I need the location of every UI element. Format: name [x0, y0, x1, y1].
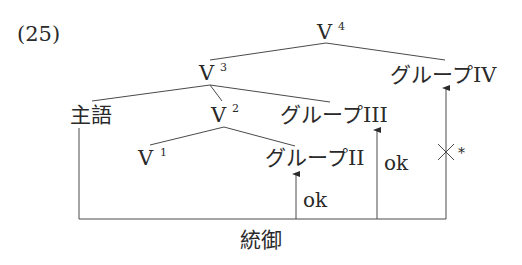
node-v3: V 3	[198, 61, 227, 85]
node-v2: V 2	[210, 102, 239, 127]
branch-v4-v3	[210, 43, 326, 60]
node-subject: 主語	[70, 103, 112, 127]
blocked-star: *	[458, 145, 465, 161]
node-v4: V 4	[316, 20, 345, 44]
node-group3: グループIII	[280, 103, 388, 127]
node-v3-sup: 3	[220, 61, 227, 74]
branch-v3-group3	[210, 85, 330, 102]
branch-v2-v1	[150, 127, 224, 145]
ok-label-group3: ok	[384, 151, 409, 175]
branch-v4-group4	[326, 43, 445, 60]
node-v1-label: V	[137, 146, 154, 170]
command-label: 統御	[240, 228, 282, 252]
branch-v2-group2	[224, 127, 295, 146]
node-v1: V 1	[137, 146, 167, 170]
node-v3-label: V	[198, 61, 215, 85]
node-v4-label: V	[316, 20, 333, 44]
node-v4-sup: 4	[338, 20, 345, 33]
ok-label-group2: ok	[303, 188, 328, 212]
branch-v3-subject	[92, 85, 210, 101]
syntax-tree-diagram: (25) V 4 V 3 グループIV 主語 V 2 グループIII V 1 グ…	[0, 0, 522, 265]
node-group2: グループII	[265, 146, 365, 170]
node-v2-label: V	[210, 103, 227, 127]
node-group4: グループIV	[390, 63, 497, 87]
example-number: (25)	[17, 22, 60, 46]
branch-v3-v2	[210, 85, 222, 101]
node-v1-sup: 1	[160, 146, 167, 159]
node-v2-sup: 2	[232, 102, 239, 115]
